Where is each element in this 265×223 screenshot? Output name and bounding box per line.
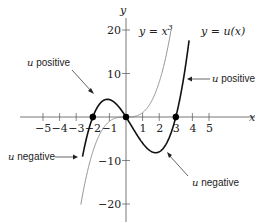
x-axis-label: x bbox=[249, 111, 256, 124]
svg-text:−5: −5 bbox=[35, 122, 51, 135]
u-curve bbox=[83, 40, 190, 156]
svg-text:−1: −1 bbox=[101, 122, 117, 135]
arrow-icon bbox=[72, 70, 92, 92]
svg-text:4: 4 bbox=[189, 122, 196, 135]
u-curve-label: y = u(x) bbox=[200, 25, 245, 38]
svg-text:u negative: u negative bbox=[8, 151, 55, 162]
svg-text:−4: −4 bbox=[52, 122, 68, 135]
svg-text:u negative: u negative bbox=[192, 177, 239, 188]
svg-text:10: 10 bbox=[107, 68, 121, 81]
svg-text:1: 1 bbox=[140, 122, 147, 135]
arrow-icon bbox=[169, 155, 188, 176]
svg-text:−20: −20 bbox=[98, 198, 121, 211]
svg-text:20: 20 bbox=[107, 24, 121, 37]
svg-text:2: 2 bbox=[156, 122, 163, 135]
chart: −5−4−3−2−112345 2010−10−20 y x y = x3 y … bbox=[0, 0, 265, 223]
y-axis-label: y bbox=[119, 4, 127, 17]
annotation-u-negative-left: u negative bbox=[8, 151, 78, 162]
annotation-u-positive-left: u positive bbox=[27, 57, 94, 94]
svg-text:u positive: u positive bbox=[212, 73, 256, 84]
annotation-u-positive-right: u positive bbox=[187, 73, 256, 84]
svg-text:u positive: u positive bbox=[27, 57, 71, 68]
svg-text:−3: −3 bbox=[68, 122, 84, 135]
cubic-label: y = x3 bbox=[138, 23, 173, 38]
svg-text:5: 5 bbox=[206, 122, 213, 135]
svg-text:−10: −10 bbox=[98, 155, 121, 168]
annotation-u-negative-right: u negative bbox=[167, 152, 239, 188]
